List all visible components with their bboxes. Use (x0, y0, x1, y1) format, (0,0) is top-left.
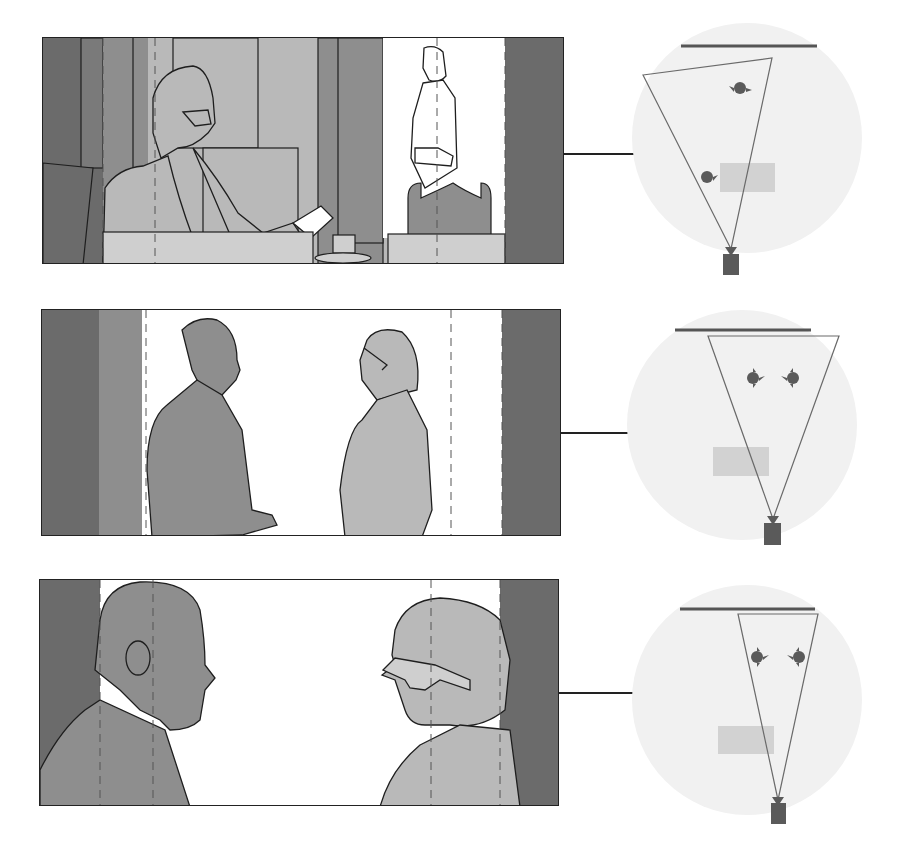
shot-2-illustration (42, 310, 561, 536)
table-marker (713, 447, 769, 476)
floor-plan-1 (620, 20, 880, 290)
plan-area (632, 585, 862, 815)
shot-3-illustration (40, 580, 559, 806)
camera-icon (771, 803, 786, 824)
camera-icon (764, 523, 781, 545)
camera-icon (723, 254, 739, 275)
floor-plan-2 (620, 300, 880, 560)
plan-area (632, 23, 862, 253)
floor-plan-3 (620, 570, 880, 840)
storyboard-frame-2 (41, 309, 561, 536)
storyboard-frame-1 (42, 37, 564, 264)
table-marker (720, 163, 775, 192)
storyboard-frame-3 (39, 579, 559, 806)
shot-1-illustration (43, 38, 564, 264)
plan-area (627, 310, 857, 540)
